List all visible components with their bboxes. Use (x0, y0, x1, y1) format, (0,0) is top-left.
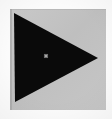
center-marker-core (45, 55, 47, 57)
play-triangle-polygon (14, 13, 98, 102)
play-triangle-icon[interactable] (10, 9, 106, 110)
screenshot-root: Play triangle icon (0, 0, 112, 119)
play-triangle-svg (10, 9, 106, 110)
